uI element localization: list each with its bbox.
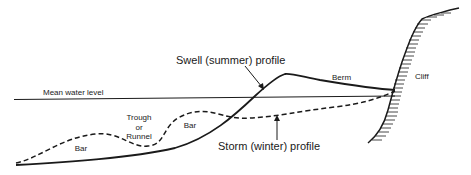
cliff-outline: [368, 8, 459, 143]
bar-nearshore-label: Bar: [184, 121, 197, 130]
bar-offshore-label: Bar: [75, 144, 88, 153]
swell-arrow: [245, 66, 264, 90]
cliff-label: Cliff: [415, 72, 429, 81]
trough-label-line1: Trough: [126, 113, 151, 122]
swell-profile-label: Swell (summer) profile: [176, 54, 285, 66]
beach-profile-diagram: Mean water level Swell (summer) profile …: [0, 0, 471, 175]
storm-profile-line: [16, 91, 395, 163]
storm-arrow: [274, 115, 280, 140]
trough-label-line3: Runnel: [126, 132, 152, 141]
trough-label-line2: or: [135, 123, 142, 132]
mean-water-level-label: Mean water level: [43, 88, 104, 97]
storm-profile-label: Storm (winter) profile: [218, 140, 320, 152]
berm-label: Berm: [332, 73, 351, 82]
